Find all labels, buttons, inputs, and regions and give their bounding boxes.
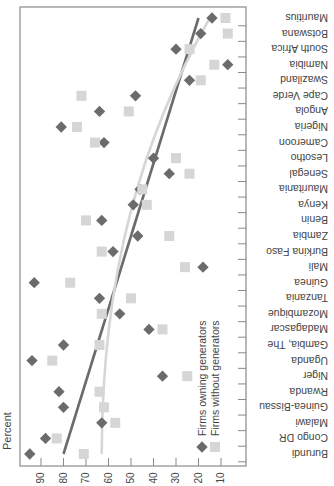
square-marker — [90, 138, 100, 148]
diamond-marker — [24, 448, 35, 459]
x-tick-label: 90 — [35, 472, 46, 484]
square-marker — [110, 418, 120, 428]
category-label: Burundi — [292, 448, 328, 460]
diamond-marker — [107, 246, 118, 257]
diamond-marker — [26, 355, 37, 366]
legend-diamond-icon — [196, 441, 207, 452]
square-marker — [95, 387, 105, 397]
category-label: Angola — [295, 105, 328, 117]
category-label: Mauritius — [285, 12, 328, 24]
diamond-marker — [98, 137, 109, 148]
category-label: Gambia, The — [267, 339, 328, 351]
diamond-marker — [58, 402, 69, 413]
category-label: Zambia — [293, 230, 328, 242]
x-tick-label: 70 — [80, 472, 91, 484]
x-tick-label: 80 — [58, 472, 69, 484]
square-marker — [142, 200, 152, 210]
square-marker — [209, 60, 219, 70]
square-marker — [196, 75, 206, 85]
x-axis: 908070605040302010 — [35, 458, 226, 484]
diamond-marker — [170, 43, 181, 54]
square-marker — [221, 13, 231, 23]
trend-line-owning — [64, 18, 199, 454]
square-marker — [97, 247, 107, 257]
diamond-marker — [222, 59, 233, 70]
square-marker — [137, 184, 147, 194]
square-marker — [185, 169, 195, 179]
legend-square-icon — [210, 442, 220, 452]
category-label: Guinea — [294, 277, 328, 289]
category-label: Botswana — [282, 28, 328, 40]
category-axis: BurundiCongo DRMalawiGuinea-BissauRwanda… — [238, 12, 328, 462]
diamond-marker — [164, 168, 175, 179]
category-label: Rwanda — [289, 386, 328, 398]
square-marker — [95, 340, 105, 350]
diamond-marker — [114, 308, 125, 319]
diamond-marker — [56, 121, 67, 132]
category-label: Senegal — [289, 168, 328, 180]
x-tick-label: 50 — [125, 472, 136, 484]
chart-svg: 908070605040302010 BurundiCongo DRMalawi… — [0, 0, 334, 486]
diamond-marker — [197, 261, 208, 272]
diamond-marker — [94, 106, 105, 117]
square-marker — [164, 231, 174, 241]
category-label: Mali — [309, 261, 328, 273]
category-label: Kenya — [298, 199, 328, 211]
square-marker — [180, 262, 190, 272]
category-label: Swaziland — [280, 74, 328, 86]
square-marker — [79, 449, 89, 459]
category-label: Niger — [302, 370, 328, 382]
diamond-marker — [29, 277, 40, 288]
diamond-marker — [40, 433, 51, 444]
legend-label: Firms owning generators — [196, 320, 208, 436]
x-tick-label: 10 — [215, 472, 226, 484]
category-label: Burkina Faso — [266, 246, 328, 258]
square-marker — [81, 215, 91, 225]
square-marker — [77, 91, 87, 101]
square-marker — [126, 293, 136, 303]
x-tick-label: 40 — [148, 472, 159, 484]
category-label: Lesotho — [290, 152, 328, 164]
square-marker — [223, 29, 233, 39]
x-tick-label: 20 — [193, 472, 204, 484]
category-label: Malawi — [295, 417, 328, 429]
diamond-marker — [128, 199, 139, 210]
square-marker — [171, 153, 181, 163]
square-marker — [47, 356, 57, 366]
legend: Firms owning generatorsFirms without gen… — [196, 320, 221, 452]
square-marker — [65, 278, 75, 288]
square-marker — [52, 433, 62, 443]
diamond-marker — [58, 339, 69, 350]
category-label: Mozambique — [268, 308, 328, 320]
category-label: Guinea-Bissau — [259, 401, 328, 413]
diamond-marker — [96, 215, 107, 226]
diamond-marker — [132, 230, 143, 241]
category-label: Madagascar — [270, 323, 328, 335]
square-marker — [97, 309, 107, 319]
x-tick-label: 60 — [103, 472, 114, 484]
square-marker — [72, 122, 82, 132]
category-label: Cameroon — [279, 137, 328, 149]
x-tick-label: 30 — [170, 472, 181, 484]
square-marker — [158, 324, 168, 334]
square-marker — [185, 44, 195, 54]
category-label: Cape Verde — [272, 90, 328, 102]
square-marker — [182, 371, 192, 381]
category-label: Namibia — [289, 59, 328, 71]
category-label: Congo DR — [279, 432, 328, 444]
category-label: Uganda — [291, 355, 328, 367]
diamond-marker — [94, 293, 105, 304]
diamond-marker — [184, 75, 195, 86]
diamond-marker — [143, 324, 154, 335]
diamond-marker — [130, 90, 141, 101]
diamond-marker — [157, 370, 168, 381]
trend-line-without — [102, 18, 210, 454]
diamond-marker — [96, 417, 107, 428]
category-label: Nigeria — [295, 121, 328, 133]
legend-label: Firms without generators — [209, 320, 221, 436]
category-label: Benin — [301, 214, 328, 226]
category-label: Mauritania — [279, 183, 328, 195]
x-axis-label: Percent — [1, 412, 13, 450]
square-marker — [124, 106, 134, 116]
category-label: South Africa — [271, 43, 328, 55]
